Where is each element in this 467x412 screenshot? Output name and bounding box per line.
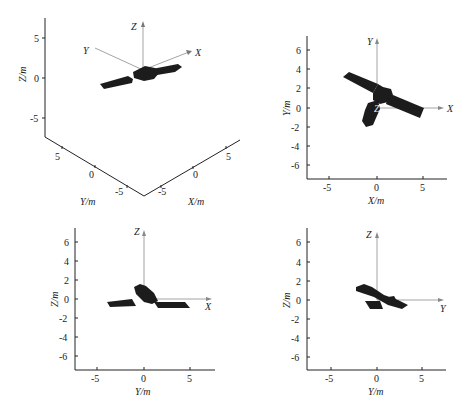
spacecraft-yz-left xyxy=(107,284,190,308)
x-tick: 0 xyxy=(374,182,379,193)
panel-3d-view: 5 0 -5 Z/m 5 0 -5 Y/m -5 0 5 X/m Z Y X xyxy=(17,18,240,207)
x-axis-label: X/m xyxy=(367,195,384,206)
ref-z-label: Z xyxy=(366,229,372,240)
x-axis-label: Y/m xyxy=(368,386,384,397)
y-tick: 4 xyxy=(296,64,301,75)
x-tick: -5 xyxy=(325,373,333,384)
ref-y-label: Y xyxy=(367,36,374,47)
y-tick: -4 xyxy=(291,333,299,344)
x-tick: 0 xyxy=(374,373,379,384)
y-axis-label: Y/m xyxy=(281,100,292,116)
y-tick-0: 0 xyxy=(89,169,94,180)
y-tick: 2 xyxy=(296,276,301,287)
y-axis-label: Z/m xyxy=(281,292,292,308)
spacecraft-yz-right xyxy=(356,284,408,309)
z-tick-5: 5 xyxy=(34,33,39,44)
panel-yz-view-right: 6 4 2 0 -2 -4 -6 -5 0 5 Y/m Z/m Z Y xyxy=(281,228,447,397)
z-axis-label: Z/m xyxy=(17,66,28,82)
ref-z-label: Z xyxy=(134,226,140,237)
panel-yz-view-left: 6 4 2 0 -2 -4 -6 -5 0 5 Y/m Z/m Z X xyxy=(49,226,215,397)
y-axis-label: Y/m xyxy=(80,196,96,207)
y-tick-5: 5 xyxy=(55,151,60,162)
y-tick: 0 xyxy=(296,103,301,114)
y-tick-m5: -5 xyxy=(115,186,123,197)
ref-z-label: Z xyxy=(374,103,380,114)
spacecraft-xy xyxy=(343,72,424,127)
ref-z-label: Z xyxy=(131,21,137,32)
y-tick: 6 xyxy=(64,237,69,248)
y-tick: 4 xyxy=(64,256,69,267)
spacecraft-3d xyxy=(100,64,182,89)
y-axis-label: Z/m xyxy=(49,291,60,307)
y-tick: -6 xyxy=(291,352,299,363)
ref-x-label: X xyxy=(194,47,202,58)
panel-xy-view: 6 4 2 0 -2 -4 -6 -5 0 5 X/m Y/m Y X Z xyxy=(281,36,454,206)
x-tick-5: 5 xyxy=(226,151,231,162)
y-tick: -4 xyxy=(59,332,67,343)
x-tick: -5 xyxy=(91,373,99,384)
x-tick-0: 0 xyxy=(193,169,198,180)
y-tick: 2 xyxy=(64,275,69,286)
x-tick: 5 xyxy=(420,182,425,193)
x-tick: 0 xyxy=(141,373,146,384)
x-axis-label: Y/m xyxy=(135,386,151,397)
y-tick: 6 xyxy=(296,237,301,248)
y-tick: 0 xyxy=(296,295,301,306)
z-tick-m5: -5 xyxy=(30,113,38,124)
x-tick: -5 xyxy=(323,182,331,193)
y-tick: 2 xyxy=(296,83,301,94)
ref-y-label: Y xyxy=(83,45,90,56)
x-tick: 5 xyxy=(419,373,424,384)
ref-x-label: X xyxy=(204,301,212,312)
ref-y-label: Y xyxy=(440,303,447,314)
y-tick: 4 xyxy=(296,257,301,268)
y-tick: -2 xyxy=(59,313,67,324)
x-tick: 5 xyxy=(187,373,192,384)
y-tick: -6 xyxy=(59,351,67,362)
x-tick-m5: -5 xyxy=(158,186,166,197)
y-tick: -4 xyxy=(291,141,299,152)
y-tick: 0 xyxy=(64,294,69,305)
y-tick: -6 xyxy=(291,160,299,171)
x-axis-label: X/m xyxy=(187,196,204,207)
y-tick: 6 xyxy=(296,45,301,56)
y-tick: -2 xyxy=(291,122,299,133)
y-tick: -2 xyxy=(291,314,299,325)
ref-x-label: X xyxy=(446,103,454,114)
z-tick-0: 0 xyxy=(34,73,39,84)
figure: 5 0 -5 Z/m 5 0 -5 Y/m -5 0 5 X/m Z Y X xyxy=(0,0,467,412)
